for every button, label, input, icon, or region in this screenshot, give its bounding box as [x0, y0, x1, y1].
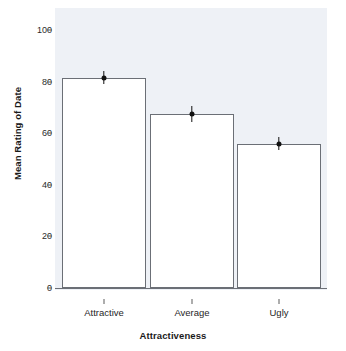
mean-point — [190, 111, 195, 116]
bar — [150, 114, 234, 288]
x-tick-mark — [279, 299, 280, 304]
y-tick-mark — [47, 288, 52, 289]
mean-point — [277, 141, 282, 146]
x-tick-label: Average — [174, 307, 209, 318]
y-tick-mark — [47, 81, 52, 82]
y-tick-label: 100 — [8, 25, 52, 35]
bar-chart-figure: 020406080100 Mean Rating of Date Attract… — [0, 0, 346, 351]
y-tick-mark — [47, 30, 52, 31]
y-tick-mark — [47, 184, 52, 185]
y-axis-title: Mean Rating of Date — [12, 74, 23, 194]
x-axis-title: Attractiveness — [0, 330, 346, 341]
y-tick-mark — [47, 133, 52, 134]
y-tick-mark — [47, 236, 52, 237]
mean-point — [102, 75, 107, 80]
x-tick-mark — [192, 299, 193, 304]
x-axis-baseline — [55, 288, 327, 289]
y-axis-ticks: 020406080100 — [0, 0, 52, 351]
y-tick-label: 0 — [8, 283, 52, 293]
bar — [62, 78, 146, 288]
x-tick-label: Attractive — [84, 307, 124, 318]
y-tick-label: 20 — [8, 231, 52, 241]
x-tick-mark — [104, 299, 105, 304]
bar — [237, 144, 321, 288]
x-tick-label: Ugly — [269, 307, 288, 318]
